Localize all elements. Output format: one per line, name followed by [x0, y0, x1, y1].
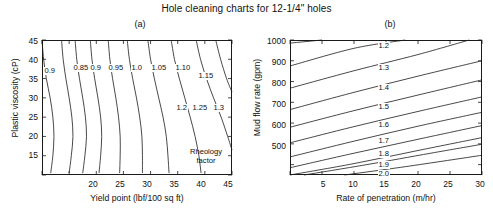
rheology-factor-line1: Rheology	[190, 147, 222, 156]
figure-title: Hole cleaning charts for 12-1/4" holes	[0, 3, 493, 14]
contour-path	[148, 40, 169, 173]
contour-label-a-4: 1.0	[131, 64, 143, 72]
yaxis-title-a: Plastic viscosity (cP)	[10, 33, 20, 163]
contour-label-a-3: 0.95	[108, 64, 124, 72]
contour-label-a-6: 1.10	[175, 64, 191, 72]
contour-path	[290, 40, 322, 43]
contour-path	[108, 40, 120, 173]
contour-label-a-1: 0.85	[73, 64, 89, 72]
contour-label-a-8: 1.2	[176, 104, 188, 112]
contour-label-a-9: 1.25	[192, 104, 208, 112]
contour-label-b-6: 1.8	[378, 150, 390, 158]
xtick-b-4: 25	[439, 179, 457, 189]
xaxis-title-a: Yield point (lbf/100 sq ft)	[42, 193, 232, 203]
yaxis-title-b: Mud flow rate (gpm)	[252, 35, 262, 160]
figure-container: Hole cleaning charts for 12-1/4" holes (…	[0, 0, 493, 217]
panel-a-label: (a)	[60, 19, 220, 29]
panel-b-label: (b)	[310, 19, 470, 29]
contour-label-a-2: 0.9	[90, 64, 102, 72]
contour-label-b-0: 1.2	[378, 42, 390, 50]
xtick-a-1: 25	[111, 179, 129, 189]
xtick-b-0: 5	[314, 179, 332, 189]
contour-label-b-3: 1.5	[378, 103, 390, 111]
contour-path	[42, 40, 54, 173]
xtick-b-1: 10	[344, 179, 362, 189]
contour-path	[127, 40, 142, 173]
contour-label-b-5: 1.7	[378, 137, 390, 145]
contour-label-a-5: 1.05	[151, 64, 167, 72]
xtick-a-2: 30	[138, 179, 156, 189]
contour-label-a-10: 1.3	[213, 104, 225, 112]
contour-path	[90, 40, 101, 173]
contour-label-b-2: 1.4	[378, 84, 390, 92]
contour-path	[75, 40, 86, 173]
contour-label-b-4: 1.6	[378, 121, 390, 129]
xtick-b-5: 30	[471, 179, 489, 189]
contour-path	[196, 40, 232, 150]
contour-label-a-7: 1.15	[198, 72, 214, 80]
contour-path	[216, 40, 232, 92]
xaxis-title-b: Rate of penetration (m/hr)	[290, 193, 482, 203]
xtick-a-4: 40	[192, 179, 210, 189]
contour-label-b-1: 1.3	[378, 64, 390, 72]
contour-label-a-0: 0.9	[44, 67, 56, 75]
xtick-a-0: 20	[84, 179, 102, 189]
xtick-a-3: 35	[165, 179, 183, 189]
xtick-a-5: 45	[219, 179, 237, 189]
rheology-factor-line2: factor	[197, 156, 216, 165]
rheology-factor-annotation: Rheology factor	[182, 148, 230, 165]
contour-path	[62, 40, 73, 173]
xtick-b-2: 15	[375, 179, 393, 189]
contour-label-b-7: 1.9	[378, 161, 390, 169]
xtick-b-3: 20	[407, 179, 425, 189]
contour-label-b-8: 2.0	[378, 170, 390, 178]
